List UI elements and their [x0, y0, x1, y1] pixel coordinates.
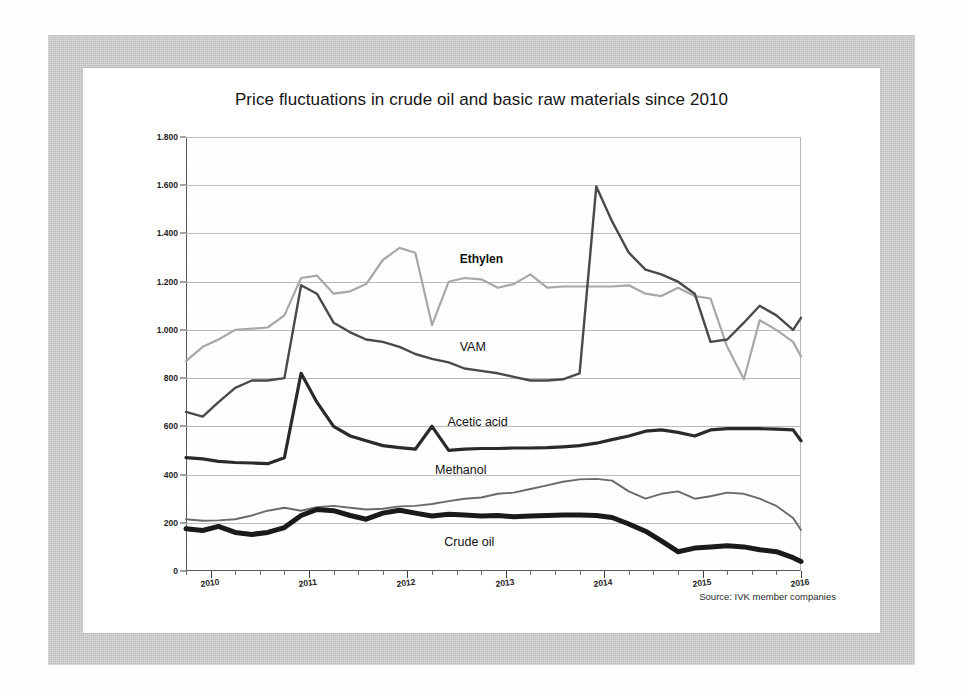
y-tick-label: 1.400	[157, 228, 178, 238]
chart-page: Price fluctuations in crude oil and basi…	[83, 68, 880, 633]
x-tick-minor	[580, 571, 581, 575]
x-tick-label: 2012	[396, 577, 416, 589]
x-tick-minor	[678, 571, 679, 575]
scanned-photo: Price fluctuations in crude oil and basi…	[0, 0, 963, 696]
source-note: Source: IVK member companies	[83, 591, 836, 602]
x-tick-minor	[235, 571, 236, 575]
x-tick-label: 2014	[593, 577, 613, 589]
x-tick-minor	[481, 571, 482, 575]
series-label-methanol: Methanol	[435, 463, 486, 477]
x-tick-label: 2010	[200, 577, 220, 589]
x-tick-minor	[653, 571, 654, 575]
y-tick-label: 0	[173, 566, 178, 576]
plot-area: 02004006008001.0001.2001.4001.6001.800 2…	[186, 137, 801, 571]
x-tick-minor	[530, 571, 531, 575]
y-tick-label: 1.000	[157, 325, 178, 335]
y-tick-label: 1.200	[157, 277, 178, 287]
x-tick-label: 2013	[495, 577, 515, 589]
series-label-crude-oil: Crude oil	[444, 535, 494, 549]
x-tick-minor	[629, 571, 630, 575]
series-line-vam	[186, 186, 801, 416]
x-tick-minor	[776, 571, 777, 575]
series-label-acetic-acid: Acetic acid	[447, 415, 507, 429]
x-tick-minor	[383, 571, 384, 575]
chart-title: Price fluctuations in crude oil and basi…	[83, 90, 880, 110]
x-tick-minor	[284, 571, 285, 575]
x-tick-minor	[752, 571, 753, 575]
x-tick-label: 2016	[790, 577, 810, 589]
y-tick-label: 1.800	[157, 132, 178, 142]
x-tick-minor	[555, 571, 556, 575]
y-tick-label: 200	[164, 518, 178, 528]
y-tick-label: 800	[164, 373, 178, 383]
series-label-ethylen: Ethylen	[460, 252, 503, 266]
y-tick-label: 600	[164, 421, 178, 431]
x-tick-minor	[727, 571, 728, 575]
x-tick-label: 2015	[692, 577, 712, 589]
x-tick-minor	[186, 571, 187, 575]
series-label-vam: VAM	[460, 340, 486, 354]
x-tick-minor	[432, 571, 433, 575]
y-tick-label: 400	[164, 470, 178, 480]
x-tick-minor	[457, 571, 458, 575]
series-line-ethylen	[186, 248, 801, 379]
series-line-methanol	[186, 479, 801, 530]
x-tick-minor	[260, 571, 261, 575]
series-lines	[186, 137, 801, 571]
y-tick-label: 1.600	[157, 180, 178, 190]
x-tick-label: 2011	[298, 577, 318, 589]
x-tick-minor	[358, 571, 359, 575]
x-tick-minor	[334, 571, 335, 575]
